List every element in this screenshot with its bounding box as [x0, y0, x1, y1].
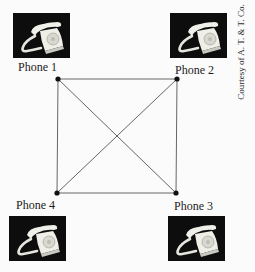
phone-3-label: Phone 3 [174, 200, 213, 212]
node-phone-3 [173, 190, 178, 195]
phone-4-label: Phone 4 [16, 199, 55, 211]
node-phone-2 [174, 76, 179, 81]
phone-2-photo [170, 13, 227, 58]
edge-phone2-phone4 [57, 79, 177, 193]
photo-credit: Courtesy of A. T. & T. Co. [237, 4, 246, 99]
node-phone-4 [54, 190, 59, 195]
edge-phone4-phone1 [57, 79, 58, 193]
telephone-icon [168, 216, 225, 261]
telephone-icon [13, 13, 70, 58]
edge-phone2-phone3 [176, 79, 177, 193]
node-phone-1 [55, 76, 60, 81]
phone-1-photo [13, 13, 70, 58]
phone-2-label: Phone 2 [175, 64, 214, 76]
network-diagram: Phone 1 Phone 2 Phone 4 Phone 3 Courtesy… [0, 0, 255, 272]
telephone-icon [9, 216, 66, 261]
telephone-icon [170, 13, 227, 58]
phone-4-photo [9, 216, 66, 261]
phone-3-photo [168, 216, 225, 261]
phone-1-label: Phone 1 [18, 61, 57, 73]
